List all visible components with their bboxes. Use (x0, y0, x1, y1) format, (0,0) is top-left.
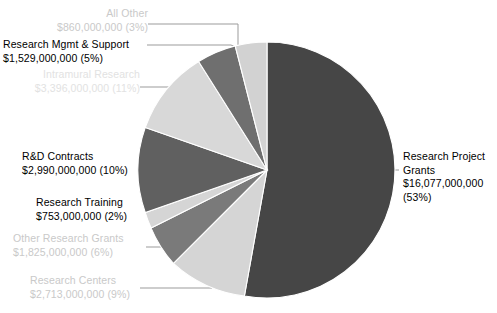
leader-line-all-other (148, 24, 238, 45)
label-other-research-grants-value: $1,825,000,000 (6%) (13, 246, 153, 260)
pie-slices (138, 42, 395, 298)
label-research-project-grants: Research Project Grants $16,077,000,000 … (403, 150, 497, 204)
label-research-centers-value: $2,713,000,000 (9%) (30, 288, 160, 302)
label-research-centers: Research Centers $2,713,000,000 (9%) (30, 274, 160, 301)
label-research-training-name: Research Training (36, 196, 166, 210)
label-research-project-grants-value-line2: (53%) (403, 191, 497, 205)
label-research-mgmt-support: Research Mgmt & Support $1,529,000,000 (… (3, 38, 153, 65)
label-all-other-name: All Other (0, 7, 148, 21)
label-research-project-grants-value-line1: $16,077,000,000 (403, 177, 497, 191)
label-rd-contracts: R&D Contracts $2,990,000,000 (10%) (22, 150, 162, 177)
label-intramural-research-value: $3,396,000,000 (11%) (0, 82, 140, 96)
label-research-training: Research Training $753,000,000 (2%) (36, 196, 166, 223)
label-research-mgmt-support-value: $1,529,000,000 (5%) (3, 52, 153, 66)
label-research-mgmt-support-name: Research Mgmt & Support (3, 38, 153, 52)
label-rd-contracts-name: R&D Contracts (22, 150, 162, 164)
label-intramural-research: Intramural Research $3,396,000,000 (11%) (0, 68, 140, 95)
label-rd-contracts-value: $2,990,000,000 (10%) (22, 164, 162, 178)
label-research-training-value: $753,000,000 (2%) (36, 210, 166, 224)
label-research-centers-name: Research Centers (30, 274, 160, 288)
label-research-project-grants-name-line1: Research Project (403, 150, 497, 164)
label-other-research-grants: Other Research Grants $1,825,000,000 (6%… (13, 232, 153, 259)
label-all-other-value: $860,000,000 (3%) (0, 21, 148, 35)
label-research-project-grants-name-line2: Grants (403, 164, 497, 178)
label-other-research-grants-name: Other Research Grants (13, 232, 153, 246)
pie-chart-figure: All Other $860,000,000 (3%) Research Mgm… (0, 0, 497, 313)
label-intramural-research-name: Intramural Research (0, 68, 140, 82)
label-all-other: All Other $860,000,000 (3%) (0, 7, 148, 34)
